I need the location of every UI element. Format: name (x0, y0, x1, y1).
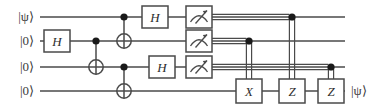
cl-w1-to-x (212, 37, 253, 79)
measurement-box[interactable] (186, 6, 212, 28)
input-ket-label-wire-0: |ψ⟩ (18, 9, 34, 25)
measurement-meas-w1[interactable] (186, 30, 212, 52)
gate-label-z: Z (288, 84, 295, 100)
gate-label-h: H (157, 60, 166, 76)
gate-label-h: H (150, 10, 159, 26)
gate-label-x: X (245, 84, 253, 100)
measurement-meas-w0[interactable] (186, 6, 212, 28)
cnot-w2-w3 (117, 63, 131, 98)
input-ket-label-wire-3: |0⟩ (20, 83, 34, 99)
classical-control-dot (288, 13, 295, 20)
classical-control-dot (327, 63, 334, 70)
input-ket-label-wire-1: |0⟩ (20, 33, 34, 49)
measurement-box[interactable] (186, 30, 212, 52)
gate-label-z: Z (327, 84, 334, 100)
cnot-control-dot (120, 63, 127, 70)
cnot-control-dot (120, 13, 127, 20)
measurement-box[interactable] (186, 56, 212, 78)
measurement-meas-w2[interactable] (186, 56, 212, 78)
input-ket-label-wire-2: |0⟩ (20, 59, 34, 75)
circuit-canvas (0, 0, 383, 111)
output-ket-label-wire-3: |ψ⟩ (351, 83, 367, 99)
cnot-w0-w1 (117, 13, 131, 48)
classical-control-dot (245, 37, 252, 44)
cl-w2-to-z-b (212, 63, 335, 79)
cnot-control-dot (92, 37, 99, 44)
gate-label-h: H (52, 34, 61, 50)
quantum-circuit-figure: HHHXZZ|ψ⟩|0⟩|0⟩|0⟩|ψ⟩ (0, 0, 383, 111)
cnot-w1-w2 (89, 37, 103, 74)
